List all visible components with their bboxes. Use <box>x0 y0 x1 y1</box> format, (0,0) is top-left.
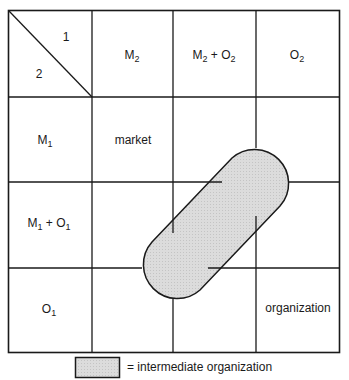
cell-organization: organization <box>265 301 330 315</box>
legend-swatch <box>76 358 120 378</box>
intermediate-organization-shape <box>143 149 288 298</box>
corner-label-2: 2 <box>36 67 43 81</box>
corner-label-1: 1 <box>63 30 70 44</box>
row-header-m1: M1 <box>37 133 52 149</box>
column-header-m2: M2 <box>124 48 139 64</box>
cell-market: market <box>115 133 152 147</box>
row-header-o1: O1 <box>42 302 56 318</box>
row-header-m1-o1: M1 + O1 <box>27 216 70 232</box>
legend-label: = intermediate organization <box>127 360 272 374</box>
column-header-o2: O2 <box>290 48 304 64</box>
column-header-m2-o2: M2 + O2 <box>192 48 235 64</box>
